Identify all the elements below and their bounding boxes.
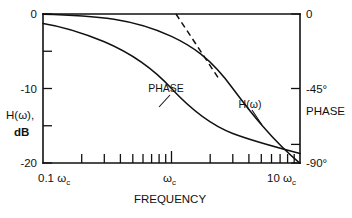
left-axis-title-line2: dB bbox=[14, 126, 29, 138]
bode-plot-figure: 0 -10 -20 0 -45° -90° 0.1 ωc ωc 10 ωc H(… bbox=[0, 0, 352, 218]
right-tick-label-0: 0 bbox=[306, 8, 312, 20]
right-tick-label-minus90: -90° bbox=[306, 157, 327, 169]
phase-label-leader-line bbox=[159, 95, 170, 107]
x-tick-label-high-sub: c bbox=[292, 178, 296, 187]
x-tick-label-mid-sub: c bbox=[172, 178, 176, 187]
x-tick-label-low: 0.1 ωc bbox=[38, 172, 70, 187]
magnitude-curve-label: H(ω) bbox=[239, 98, 262, 110]
left-axis-tick-labels: 0 -10 -20 bbox=[20, 8, 37, 169]
left-axis-ticks bbox=[43, 14, 52, 163]
right-tick-label-minus45: -45° bbox=[306, 83, 327, 95]
left-tick-label-minus20: -20 bbox=[20, 157, 37, 169]
x-tick-label-high: 10 ωc bbox=[267, 172, 296, 187]
x-axis-ticks bbox=[82, 151, 295, 163]
asymptote-dashed-line bbox=[176, 14, 219, 79]
right-axis-tick-labels: 0 -45° -90° bbox=[306, 8, 327, 169]
bode-plot-canvas: 0 -10 -20 0 -45° -90° 0.1 ωc ωc 10 ωc H(… bbox=[0, 0, 352, 218]
right-axis-ticks bbox=[291, 14, 300, 163]
x-axis-tick-labels: 0.1 ωc ωc 10 ωc bbox=[38, 172, 296, 187]
x-axis-title: FREQUENCY bbox=[134, 193, 207, 205]
x-tick-label-low-main: 0.1 ω bbox=[38, 172, 66, 184]
left-axis-title-line1: H(ω), bbox=[6, 109, 34, 121]
x-tick-label-mid-main: ω bbox=[163, 172, 172, 184]
x-tick-label-mid: ωc bbox=[163, 172, 176, 187]
phase-curve-label: PHASE bbox=[148, 82, 184, 94]
right-axis-title: PHASE bbox=[306, 105, 345, 117]
left-tick-label-minus10: -10 bbox=[20, 83, 37, 95]
left-tick-label-0: 0 bbox=[31, 8, 37, 20]
magnitude-label-leader-line bbox=[252, 110, 262, 125]
x-tick-label-low-sub: c bbox=[66, 178, 70, 187]
x-tick-label-high-main: 10 ω bbox=[267, 172, 292, 184]
